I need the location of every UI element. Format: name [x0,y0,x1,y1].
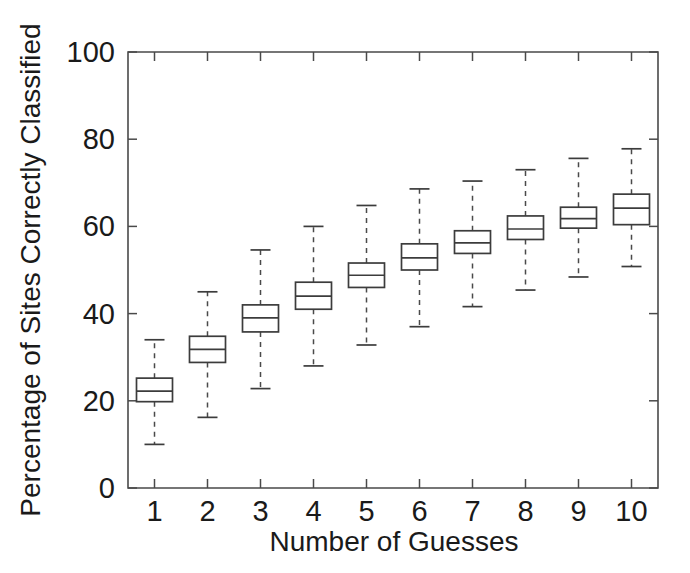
x-tick-label-2: 2 [199,495,215,527]
box-group-4 [296,226,332,366]
x-axis-title: Number of Guesses [270,526,519,557]
boxplot-figure: 12345678910 020406080100 Number of Guess… [0,0,690,573]
box-group-5 [349,205,385,345]
box-6 [402,244,438,270]
box-group-7 [455,181,491,307]
x-tick-label-6: 6 [411,495,427,527]
y-tick-labels: 020406080100 [67,36,115,504]
box-group-1 [137,340,173,445]
y-tick-label-100: 100 [67,36,115,68]
x-tick-label-1: 1 [146,495,162,527]
x-tick-label-7: 7 [464,495,480,527]
box-9 [561,207,597,228]
y-tick-label-20: 20 [83,385,115,417]
y-tick-label-40: 40 [83,298,115,330]
box-10 [614,194,650,225]
box-group-2 [190,292,226,418]
box-group-10 [614,149,650,267]
chart-canvas: 12345678910 020406080100 Number of Guess… [0,0,690,573]
x-tick-label-9: 9 [570,495,586,527]
y-tick-label-0: 0 [99,472,115,504]
box-group-6 [402,189,438,327]
x-tick-label-5: 5 [358,495,374,527]
box-1 [137,378,173,402]
box-8 [508,216,544,240]
y-tick-label-80: 80 [83,123,115,155]
box-group-9 [561,158,597,277]
box-group-3 [243,250,279,389]
box-7 [455,231,491,254]
box-group-8 [508,170,544,290]
y-axis-title: Percentage of Sites Correctly Classified [15,23,46,516]
x-tick-label-4: 4 [305,495,321,527]
y-tick-label-60: 60 [83,210,115,242]
x-tick-labels: 12345678910 [146,495,647,527]
box-series [137,149,650,445]
x-tick-label-10: 10 [615,495,647,527]
x-tick-label-3: 3 [252,495,268,527]
x-tick-label-8: 8 [517,495,533,527]
